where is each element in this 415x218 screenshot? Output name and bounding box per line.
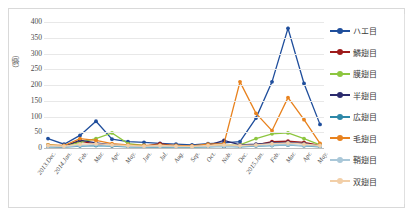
data-point — [286, 26, 290, 30]
data-point — [302, 142, 306, 146]
data-point — [110, 143, 114, 147]
y-axis-tick-labels: 050100150200250300350400 — [18, 22, 42, 148]
x-axis-tick: Feb. — [76, 150, 88, 164]
data-point — [94, 119, 98, 123]
legend-item-label: 鞘翅目 — [353, 154, 377, 165]
gridline — [44, 117, 324, 118]
legend-item[interactable]: 毛翅目 — [330, 128, 410, 150]
data-point — [222, 143, 226, 147]
data-point — [318, 144, 322, 148]
legend-item[interactable]: 鱗翅目 — [330, 42, 410, 64]
x-axis-tick: Sep. — [189, 150, 201, 163]
legend-item[interactable]: 双翅目 — [330, 171, 410, 193]
data-point — [126, 144, 130, 148]
y-axis-tick: 400 — [31, 18, 42, 26]
legend-marker-icon — [330, 176, 350, 186]
data-point — [286, 96, 290, 100]
legend-item-label: ハエ目 — [353, 25, 377, 36]
series-line — [48, 28, 320, 145]
x-axis-tick: Mar. — [284, 150, 297, 164]
gridline — [44, 132, 324, 133]
data-point — [46, 144, 50, 148]
legend-item-label: 双翅目 — [353, 176, 377, 187]
y-axis-tick: 350 — [31, 34, 42, 42]
y-axis-tick: 0 — [38, 144, 42, 152]
legend-item[interactable]: 半翅目 — [330, 85, 410, 107]
x-axis-tick: Jun. — [141, 150, 153, 163]
y-axis-tick: 250 — [31, 65, 42, 73]
legend-marker-icon — [330, 112, 350, 122]
data-point — [302, 137, 306, 141]
legend-marker-icon — [330, 47, 350, 57]
data-point — [270, 80, 274, 84]
gridline — [44, 69, 324, 70]
data-point — [78, 137, 82, 141]
data-point — [254, 111, 258, 115]
data-point — [238, 80, 242, 84]
data-point — [46, 137, 50, 141]
legend-marker-icon — [330, 155, 350, 165]
x-axis-tick: Oct. — [205, 150, 217, 163]
data-point — [286, 141, 290, 145]
y-axis-tick: 200 — [31, 81, 42, 89]
x-axis-tick: Feb. — [268, 150, 280, 164]
plot-area — [44, 22, 324, 148]
x-axis-tick: May. — [124, 150, 137, 165]
data-point — [270, 142, 274, 146]
x-axis-tick: Dec. — [236, 150, 249, 164]
x-axis-tick: Nob. — [220, 150, 233, 164]
data-point — [158, 144, 162, 148]
data-point — [94, 142, 98, 146]
gridline — [44, 22, 324, 23]
legend-marker-icon — [330, 133, 350, 143]
gridline — [44, 85, 324, 86]
y-axis-tick: 150 — [31, 97, 42, 105]
gridline — [44, 148, 324, 149]
data-point — [238, 144, 242, 148]
legend-item[interactable]: ハエ目 — [330, 20, 410, 42]
x-axis-tick: Jul. — [158, 150, 169, 162]
data-point — [78, 142, 82, 146]
x-axis-tick: May. — [316, 150, 329, 165]
data-point — [254, 143, 258, 147]
data-point — [302, 118, 306, 122]
gridline — [44, 101, 324, 102]
x-axis-tick: Aug. — [172, 150, 185, 164]
gridline — [44, 54, 324, 55]
x-axis-tick: Apr. — [301, 150, 313, 163]
legend-marker-icon — [330, 69, 350, 79]
legend-item-label: 広翅目 — [353, 111, 377, 122]
legend-item[interactable]: 鞘翅目 — [330, 149, 410, 171]
x-axis-tick: Mar. — [92, 150, 105, 164]
legend-marker-icon — [330, 90, 350, 100]
series-line — [48, 82, 320, 146]
line-chart: （頭） 050100150200250300350400 2013.Dec.20… — [0, 0, 415, 218]
legend-item-label: 膜翅目 — [353, 68, 377, 79]
gridline — [44, 38, 324, 39]
legend-marker-icon — [330, 26, 350, 36]
x-axis-tick-labels: 2013.Dec.2014.Jan.Feb.Mar.Apr.May.Jun.Ju… — [44, 150, 324, 206]
chart-legend: ハエ目鱗翅目膜翅目半翅目広翅目毛翅目鞘翅目双翅目 — [330, 20, 410, 192]
legend-item-label: 毛翅目 — [353, 133, 377, 144]
legend-item[interactable]: 膜翅目 — [330, 63, 410, 85]
legend-item[interactable]: 広翅目 — [330, 106, 410, 128]
legend-item-label: 鱗翅目 — [353, 47, 377, 58]
y-axis-tick: 100 — [31, 113, 42, 121]
y-axis-tick: 50 — [35, 128, 43, 136]
data-point — [206, 144, 210, 148]
x-axis-tick: Apr. — [109, 150, 121, 163]
legend-item-label: 半翅目 — [353, 90, 377, 101]
data-point — [318, 122, 322, 126]
y-axis-tick: 300 — [31, 50, 42, 58]
data-point — [110, 137, 114, 141]
data-point — [254, 137, 258, 141]
